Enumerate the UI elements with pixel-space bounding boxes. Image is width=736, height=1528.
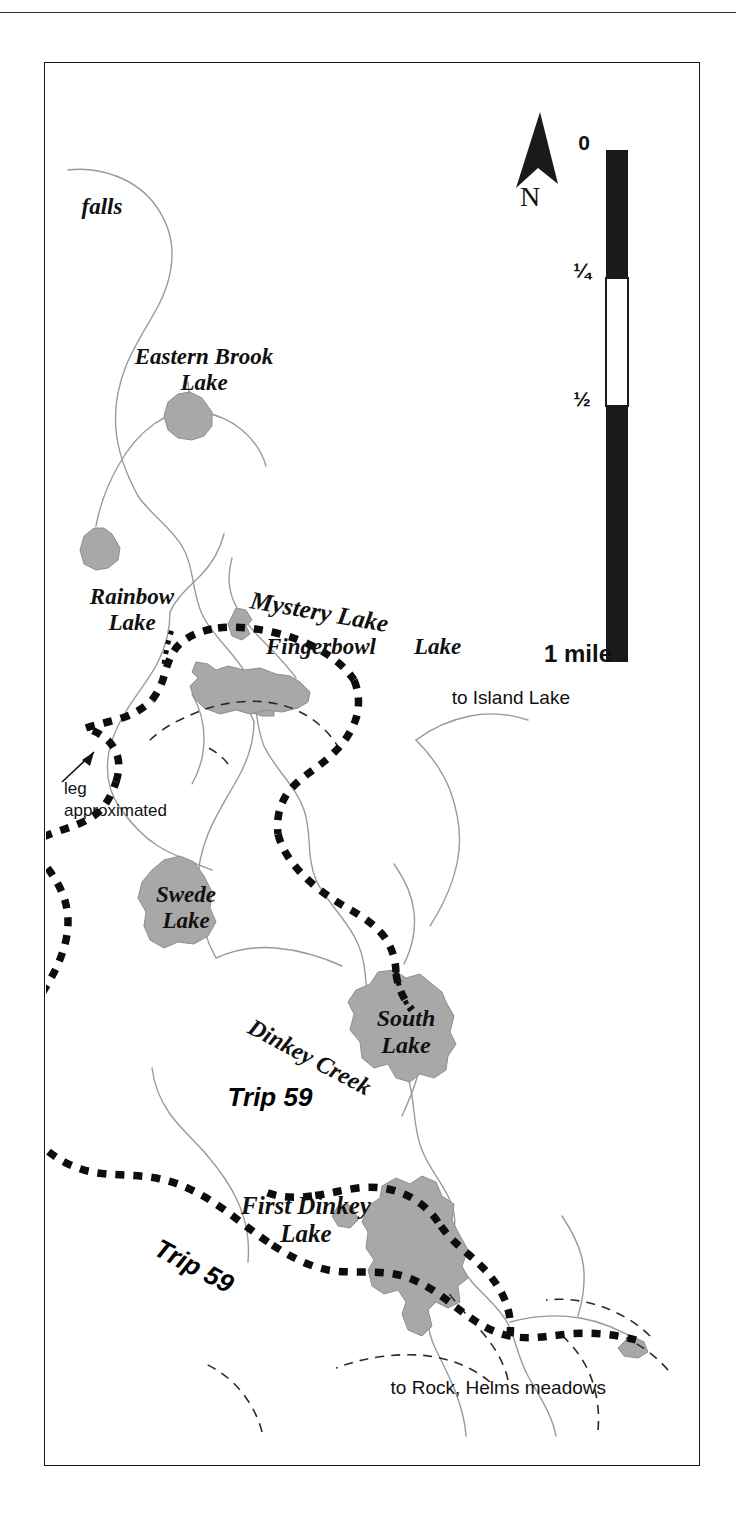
scale-unit-label: 1 mile: [544, 640, 612, 667]
minor-trail-far-west: [206, 1364, 262, 1432]
stream-south-lake-south: [216, 947, 342, 966]
label-south-lake: South Lake: [377, 1005, 436, 1058]
north-arrow-glyph: [516, 112, 558, 188]
label-eastern-brook-lake: Eastern Brook Lake: [134, 344, 274, 395]
minor-trail-mystery-spur: [204, 746, 228, 764]
rainbow-lake-shape: [80, 528, 120, 570]
label-trip-59-center-text: Trip 59: [228, 1082, 313, 1112]
stream-center-spur: [192, 694, 204, 784]
stream-to-island-lake: [416, 714, 528, 740]
label-trip-59-center: Trip 59: [228, 1082, 313, 1112]
eastern-brook-lake-shape: [164, 392, 212, 440]
trip-59-route-to-south-lake: [278, 834, 396, 974]
annotation-leg-upper-line1: leg: [64, 779, 87, 798]
label-south-lake-line2: Lake: [380, 1032, 431, 1058]
label-falls: falls: [82, 194, 123, 219]
stream-left-tributary: [394, 864, 415, 964]
main-trail-layer: [46, 156, 636, 1340]
label-rainbow-lake-line2: Lake: [107, 610, 155, 635]
page-top-rule: [0, 12, 736, 13]
stream-dinkey-feeder: [562, 1216, 584, 1316]
label-fingerbowl-lake-line2: Lake: [413, 634, 461, 659]
label-rainbow-lake-line1: Rainbow: [89, 584, 175, 609]
scale-tick-0: 0: [578, 131, 590, 154]
scale-bar-segment-0: [606, 150, 628, 278]
label-falls-text: falls: [82, 194, 123, 219]
label-to-rock-helms-meadows: to Rock, Helms meadows: [391, 1377, 606, 1398]
north-arrow-letter: N: [520, 181, 540, 212]
label-swede-lake-line1: Swede: [156, 882, 216, 907]
label-eastern-brook-lake-line2: Lake: [179, 370, 227, 395]
annotation-leg-upper-line2: approximated: [64, 801, 167, 820]
minor-trail-west-a: [448, 1292, 508, 1380]
map-frame: to Rock, Helms meadows to Island Lake Fi…: [44, 62, 700, 1466]
label-rainbow-lake: Rainbow Lake: [89, 584, 175, 635]
label-south-lake-line1: South: [377, 1005, 436, 1031]
label-mystery-lake: Mystery Lake: [247, 586, 390, 637]
label-swede-lake-line2: Lake: [161, 908, 209, 933]
scale-bar-segment-2: [606, 406, 628, 662]
stream-south-lake-outlet-east: [416, 740, 460, 926]
label-trip-59-northwest-text: Trip 59: [150, 1233, 239, 1300]
scale-bar: 0 ¼ ½ 1 mile: [544, 131, 628, 667]
minor-trail-mystery-loop-2: [148, 718, 184, 742]
label-first-dinkey-lake-line1: First Dinkey: [240, 1192, 372, 1219]
label-to-island-lake: to Island Lake: [452, 687, 570, 708]
label-swede-lake: Swede Lake: [156, 882, 216, 933]
map-stage: to Rock, Helms meadows to Island Lake Fi…: [46, 64, 698, 1464]
scale-tick-half: ½: [573, 387, 591, 410]
trip-59-route-to-junction: [46, 846, 68, 1094]
label-trip-59-northwest: Trip 59: [150, 1233, 239, 1300]
stream-creek-to-trailhead: [68, 169, 116, 176]
label-fingerbowl-lake-line1: Fingerbowl: [265, 634, 377, 659]
stream-north-branch: [510, 1316, 640, 1342]
north-arrow: N: [516, 112, 558, 212]
first-dinkey-lake-shape: [362, 1176, 468, 1336]
leader-arrow-upper: [82, 752, 94, 766]
trip-59-route-center-west: [46, 1094, 268, 1242]
scale-bar-segment-1: [606, 278, 628, 406]
mystery-lake-shape: [190, 662, 310, 714]
trail-map: to Rock, Helms meadows to Island Lake Fi…: [46, 64, 698, 1464]
label-mystery-lake-line1: Mystery Lake: [247, 586, 390, 637]
label-fingerbowl-lake: Fingerbowl Lake: [265, 634, 461, 659]
stream-nw-tributary-2: [152, 1068, 206, 1154]
label-first-dinkey-lake-line2: Lake: [279, 1220, 331, 1247]
scale-tick-quarter: ¼: [573, 259, 592, 282]
stream-falls-creek: [115, 176, 172, 496]
label-eastern-brook-lake-line1: Eastern Brook: [134, 344, 274, 369]
